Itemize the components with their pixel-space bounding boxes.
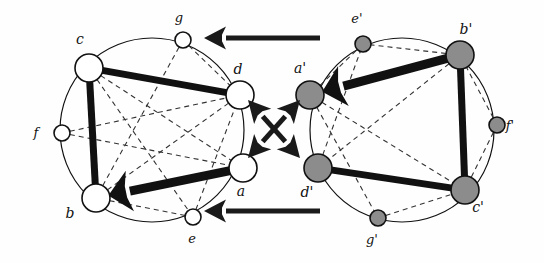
node-label-gp: g': [366, 232, 378, 247]
graph-isomorphism-figure: abcdefg a'b'c'd'e'f'g': [0, 0, 544, 263]
node-label-g: g: [175, 10, 183, 25]
top-correspondence-arrow: [204, 27, 320, 50]
node-ep[interactable]: [355, 36, 371, 52]
right-graph: a'b'c'd'e'f'g': [294, 11, 514, 247]
dashed-edge-e-d: [196, 108, 235, 209]
node-label-c: c: [76, 31, 84, 47]
node-label-cp: c': [472, 199, 484, 215]
node-label-ap: a': [294, 60, 306, 76]
node-label-f: f: [33, 125, 41, 140]
node-label-fp: f': [505, 118, 514, 133]
node-label-bp: b': [460, 21, 473, 37]
node-gp[interactable]: [370, 210, 386, 226]
node-label-ep: e': [351, 11, 362, 26]
node-ap[interactable]: [296, 81, 324, 109]
directed-edge-a-b-shaft: [129, 165, 238, 196]
node-label-dp: d': [301, 184, 314, 200]
node-label-e: e: [188, 231, 196, 246]
node-label-a: a: [237, 183, 245, 199]
node-b[interactable]: [82, 184, 110, 212]
dashed-edge-fp-bp: [467, 67, 494, 118]
dashed-edge-g-d: [189, 46, 230, 86]
node-dp[interactable]: [304, 154, 332, 182]
solid-edge-c-b: [89, 76, 95, 191]
figure-canvas: abcdefg a'b'c'd'e'f'g': [0, 0, 544, 263]
bottom-correspondence-arrow: [204, 200, 320, 223]
node-a[interactable]: [229, 154, 257, 182]
solid-edge-dp-cp: [326, 169, 458, 189]
node-g[interactable]: [175, 32, 191, 48]
bottom-correspondence-arrow-shaft: [226, 209, 320, 214]
node-e[interactable]: [185, 209, 201, 225]
node-f[interactable]: [54, 125, 70, 141]
top-correspondence-arrow-head: [204, 27, 226, 50]
node-label-b: b: [66, 205, 75, 221]
dashed-edge-bp-ep: [371, 45, 446, 54]
solid-edge-bp-cp: [460, 63, 464, 183]
node-label-d: d: [234, 61, 243, 77]
node-c[interactable]: [75, 54, 103, 82]
node-bp[interactable]: [446, 41, 474, 69]
top-correspondence-arrow-shaft: [226, 36, 320, 41]
node-fp[interactable]: [489, 117, 505, 133]
